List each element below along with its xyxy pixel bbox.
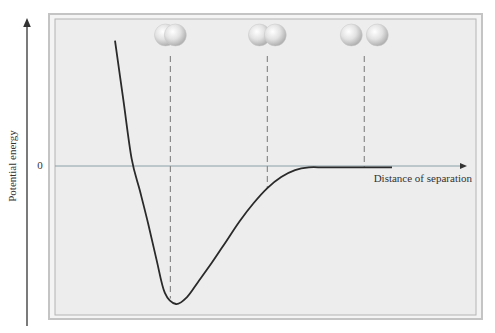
atom-bonding-atoms-2 [264,24,286,46]
y-tick-label-zero: 0 [37,159,43,171]
potential-energy-diagram: Potential energy 0 Distance of separatio… [0,0,495,333]
x-axis-label: Distance of separation [374,172,473,184]
atom-overlapping-atoms-2 [164,24,186,46]
atom-separated-atoms-1 [340,24,362,46]
y-axis-label: Potential energy [6,130,18,202]
atom-separated-atoms-2 [366,24,388,46]
